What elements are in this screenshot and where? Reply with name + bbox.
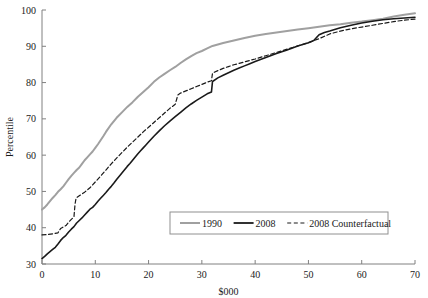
y-tick-label: 30 [26,259,36,270]
legend-label-2008-counterfactual: 2008 Counterfactual [309,218,391,229]
x-tick-label: 0 [40,269,45,280]
y-tick-label: 50 [26,186,36,197]
y-tick-label: 70 [26,113,36,124]
y-tick-label: 60 [26,150,36,161]
x-tick-label: 40 [250,269,260,280]
y-tick-label: 40 [26,222,36,233]
x-axis-title: $000 [219,286,239,297]
cumulative-distribution-chart: 30405060708090100010203040506070$000Perc… [0,0,428,298]
x-tick-label: 20 [144,269,154,280]
x-tick-label: 10 [90,269,100,280]
x-tick-label: 70 [410,269,420,280]
y-axis-title: Percentile [4,116,15,157]
y-tick-label: 90 [26,41,36,52]
x-tick-label: 50 [303,269,313,280]
x-tick-label: 60 [357,269,367,280]
x-tick-label: 30 [197,269,207,280]
legend-label-2008: 2008 [256,218,276,229]
y-tick-label: 80 [26,77,36,88]
series-line-1990 [42,13,415,209]
series-line-2008-counterfactual [42,19,415,235]
legend-label-1990: 1990 [202,218,222,229]
chart-figure: 30405060708090100010203040506070$000Perc… [0,0,428,298]
y-tick-label: 100 [21,5,36,16]
